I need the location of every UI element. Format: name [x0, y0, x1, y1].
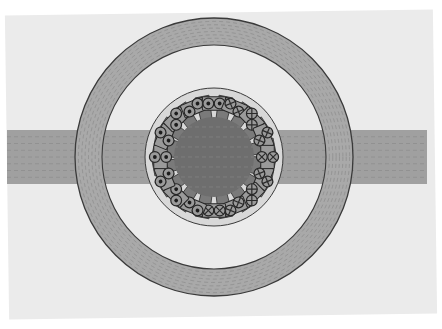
- rotor-assembly: [145, 88, 283, 226]
- figure-stage: [0, 0, 442, 329]
- rotor-core: [174, 117, 254, 197]
- machine-cross-section-diagram: [0, 0, 442, 329]
